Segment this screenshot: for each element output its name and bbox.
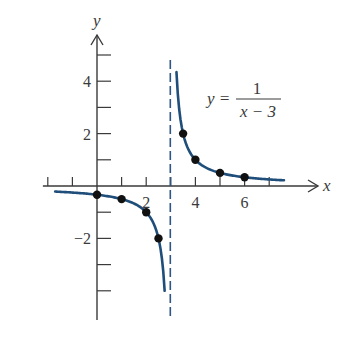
x-axis-label: x (322, 176, 331, 195)
data-point (216, 169, 224, 177)
data-point (240, 173, 248, 181)
y-tick-label: 4 (83, 73, 91, 90)
equation-denominator: x − 3 (239, 102, 276, 121)
tick-marks (48, 55, 269, 291)
x-tick-label: 4 (191, 194, 199, 211)
data-point (179, 129, 187, 137)
x-tick-label: 6 (241, 194, 249, 211)
y-tick-label: −2 (74, 230, 91, 247)
data-point (117, 195, 125, 203)
equation-lhs: y = (205, 89, 230, 108)
data-point (142, 208, 150, 216)
y-axis-label: y (91, 11, 101, 30)
equation-numerator: 1 (253, 79, 262, 98)
y-tick-label: 2 (83, 126, 91, 143)
data-point (154, 234, 162, 242)
chart-canvas: 24642−2 y x y = 1 x − 3 (0, 0, 342, 344)
data-point (191, 156, 199, 164)
data-point (93, 191, 101, 199)
equation-label: y = 1 x − 3 (205, 79, 281, 121)
